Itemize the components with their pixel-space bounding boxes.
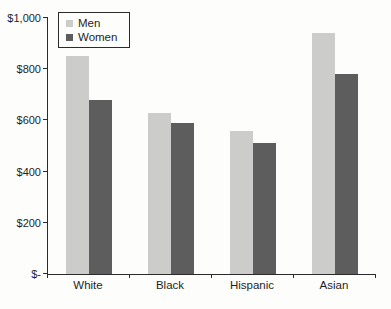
x-category-label-black: Black: [129, 279, 211, 291]
x-tick-mark: [375, 274, 376, 278]
legend-entry-men: Men: [66, 17, 117, 29]
x-tick-mark: [47, 274, 48, 278]
x-category-label-hispanic: Hispanic: [211, 279, 293, 291]
bar-men-white: [66, 56, 89, 274]
bar-women-asian: [335, 74, 358, 274]
legend-marker-icon: [66, 20, 73, 27]
bar-women-black: [171, 123, 194, 274]
bar-chart: $-$200$400$600$800$1,000 WhiteBlackHispa…: [0, 0, 391, 309]
bars-container: [48, 18, 376, 274]
category-group-asian: [294, 18, 376, 274]
y-tick-label: $400: [17, 166, 41, 178]
plot-area: [47, 18, 376, 275]
x-tick-mark: [293, 274, 294, 278]
y-tick-mark: [43, 171, 48, 172]
legend-entry-women: Women: [66, 31, 117, 43]
y-tick-label: $1,000: [7, 12, 41, 24]
legend: MenWomen: [58, 12, 130, 48]
y-tick-label: $200: [17, 217, 41, 229]
x-category-label-asian: Asian: [293, 279, 375, 291]
legend-label: Men: [78, 17, 100, 29]
y-axis: $-$200$400$600$800$1,000: [0, 18, 41, 274]
y-tick-mark: [43, 119, 48, 120]
x-category-label-white: White: [47, 279, 129, 291]
bar-women-hispanic: [253, 143, 276, 274]
bar-women-white: [89, 100, 112, 274]
y-tick-mark: [43, 17, 48, 18]
x-axis: WhiteBlackHispanicAsian: [47, 279, 375, 291]
bar-men-asian: [312, 33, 335, 274]
x-tick-mark: [129, 274, 130, 278]
y-tick-label: $600: [17, 114, 41, 126]
y-tick-mark: [43, 222, 48, 223]
category-group-hispanic: [212, 18, 294, 274]
bar-men-hispanic: [230, 131, 253, 274]
y-tick-mark: [43, 68, 48, 69]
category-group-black: [130, 18, 212, 274]
bar-men-black: [148, 113, 171, 274]
legend-marker-icon: [66, 34, 73, 41]
legend-label: Women: [78, 31, 117, 43]
category-group-white: [48, 18, 130, 274]
y-tick-label: $-: [31, 268, 41, 280]
y-tick-label: $800: [17, 63, 41, 75]
x-tick-mark: [211, 274, 212, 278]
